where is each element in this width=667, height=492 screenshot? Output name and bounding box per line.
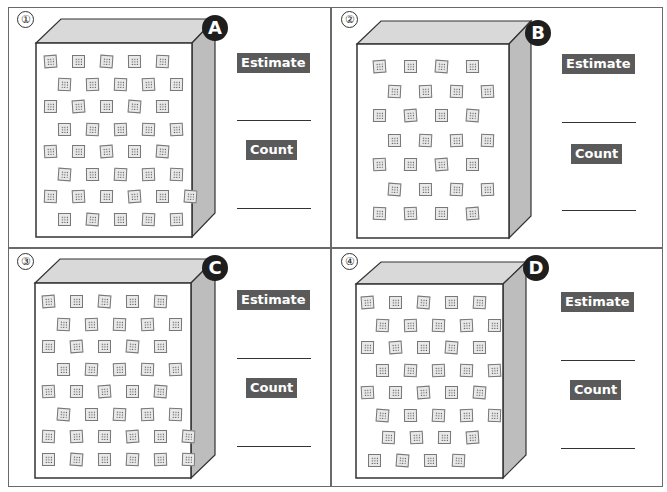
- box-letter-badge: B: [525, 20, 551, 46]
- tile-icon: [417, 341, 430, 354]
- tile-icon: [361, 341, 374, 354]
- tile-icon: [72, 100, 86, 114]
- tile-icon: [142, 167, 155, 180]
- tile-icon: [156, 55, 170, 69]
- tile-icon: [70, 340, 84, 354]
- tile-icon: [466, 60, 479, 73]
- tile-icon: [85, 317, 98, 330]
- count-answer-line[interactable]: [237, 208, 311, 209]
- tile-icon: [419, 133, 433, 147]
- tile-icon: [404, 408, 417, 421]
- tile-icon: [481, 133, 494, 146]
- tile-icon: [182, 452, 195, 465]
- tile-icon: [382, 431, 395, 444]
- tile-icon: [184, 190, 198, 204]
- tile-icon: [126, 452, 140, 466]
- tile-icon: [460, 318, 474, 332]
- tile-icon: [113, 362, 126, 375]
- tile-icon: [114, 122, 127, 135]
- tile-icon: [114, 212, 127, 225]
- tile-icon: [466, 109, 480, 123]
- tile-icon: [128, 145, 141, 158]
- tile-icon: [373, 158, 387, 172]
- tile-icon: [435, 158, 449, 172]
- count-label: Count: [246, 140, 297, 160]
- tile-icon: [424, 453, 437, 466]
- tile-icon: [419, 182, 432, 195]
- tile-icon: [44, 145, 58, 159]
- tile-icon: [156, 100, 169, 113]
- tile-icon: [100, 100, 113, 113]
- tile-icon: [450, 84, 463, 97]
- tile-icon: [70, 385, 83, 398]
- tile-icon: [445, 386, 458, 399]
- count-answer-line[interactable]: [562, 210, 636, 211]
- tile-icon: [169, 317, 182, 330]
- tile-icon: [100, 55, 114, 69]
- tile-icon: [373, 60, 387, 74]
- tile-icon: [396, 453, 410, 467]
- estimate-answer-line[interactable]: [561, 360, 635, 361]
- tile-icon: [154, 452, 167, 465]
- estimate-answer-line[interactable]: [237, 358, 311, 359]
- tile-icon: [98, 385, 112, 399]
- tile-icon: [404, 60, 417, 73]
- tile-icon: [404, 158, 417, 171]
- tile-icon: [389, 386, 402, 399]
- tile-icon: [128, 190, 142, 204]
- tile-icon: [404, 363, 418, 377]
- tile-icon: [141, 407, 154, 420]
- tile-icon: [481, 182, 494, 195]
- tile-icon: [154, 385, 168, 399]
- count-answer-line[interactable]: [237, 446, 311, 447]
- tile-icon: [473, 386, 487, 400]
- tile-icon: [57, 407, 71, 421]
- tile-icon: [142, 77, 156, 91]
- tile-icon: [435, 109, 448, 122]
- tile-icon: [170, 167, 183, 180]
- tile-icon: [42, 453, 55, 466]
- estimate-label: Estimate: [561, 292, 634, 312]
- tile-icon: [410, 431, 424, 445]
- estimate-answer-line[interactable]: [237, 120, 311, 121]
- tile-icon: [42, 340, 55, 353]
- tile-icon: [419, 84, 432, 97]
- tile-icon: [169, 407, 182, 420]
- tile-icon: [170, 212, 183, 225]
- estimate-label: Estimate: [562, 54, 635, 74]
- tile-icon: [70, 295, 83, 308]
- tile-icon: [98, 340, 111, 353]
- tile-icon: [126, 385, 139, 398]
- tile-icon: [466, 207, 480, 221]
- tile-icon: [70, 430, 84, 444]
- tile-icon: [113, 407, 127, 421]
- tile-icon: [42, 430, 55, 443]
- tile-icon: [44, 100, 57, 113]
- tile-icon: [466, 431, 480, 445]
- tile-icon: [57, 362, 70, 375]
- tile-icon: [432, 318, 445, 331]
- tile-icon: [481, 84, 495, 98]
- tile-icon: [98, 430, 111, 443]
- tile-icon: [154, 340, 167, 353]
- tile-icon: [72, 190, 86, 204]
- tile-icon: [445, 296, 458, 309]
- tile-icon: [361, 296, 375, 310]
- tile-icon: [368, 454, 381, 467]
- estimate-answer-line[interactable]: [562, 122, 636, 123]
- tile-icon: [86, 167, 99, 180]
- count-answer-line[interactable]: [561, 448, 635, 449]
- tile-icon: [388, 133, 401, 146]
- tile-icon: [376, 408, 390, 422]
- tile-icon: [100, 145, 114, 159]
- tile-icon: [58, 77, 72, 91]
- panel-d: ④ D Estimate Count: [333, 250, 655, 490]
- tile-icon: [113, 317, 126, 330]
- tile-icon: [169, 362, 183, 376]
- tile-icon: [417, 296, 431, 310]
- tile-icon: [126, 340, 140, 354]
- estimate-label: Estimate: [237, 53, 310, 73]
- tile-icon: [404, 318, 417, 331]
- tile-icon: [488, 363, 502, 377]
- tile-icon: [373, 207, 386, 220]
